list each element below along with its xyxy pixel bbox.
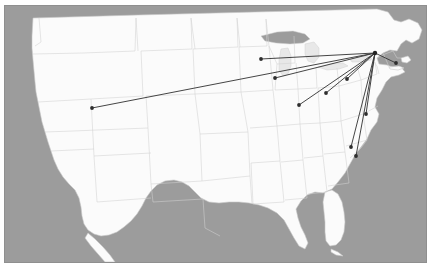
node-west-interior: [90, 106, 94, 110]
node-ohio-valley: [324, 91, 328, 95]
node-coastal-south: [364, 112, 368, 116]
node-upper-midwest: [259, 57, 263, 61]
node-mid-atlantic: [345, 77, 349, 81]
node-new-england: [394, 61, 398, 65]
node-great-lakes: [273, 76, 277, 80]
northeast-hub: [373, 51, 377, 55]
node-carolina-east: [354, 154, 358, 158]
node-lower-midwest: [297, 103, 301, 107]
map-canvas: [5, 6, 426, 262]
route-map-figure: [0, 0, 431, 269]
map-frame: [4, 5, 427, 263]
node-carolina-west: [349, 145, 353, 149]
